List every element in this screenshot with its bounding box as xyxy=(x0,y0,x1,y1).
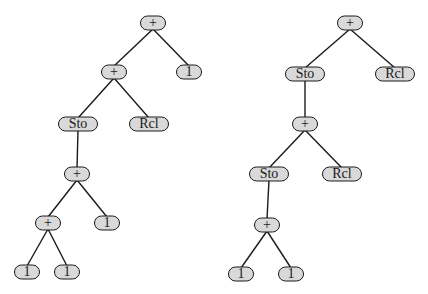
right-tree-edge-R6-R7 xyxy=(241,231,267,268)
right-tree-node-R8: 1 xyxy=(278,267,304,282)
left-tree-edge-L1-L4 xyxy=(114,78,149,118)
right-tree-edge-R0-R2 xyxy=(350,29,395,68)
right-tree-node-R6: + xyxy=(254,218,280,233)
right-tree-edge-R0-R1 xyxy=(305,29,350,68)
right-tree-edge-R6-R8 xyxy=(267,231,291,268)
left-tree-edge-L5-L6 xyxy=(48,180,77,217)
left-tree-edge-L6-L8 xyxy=(27,229,48,266)
left-tree-node-L9: 1 xyxy=(54,265,80,280)
right-tree-node-R0: + xyxy=(337,16,363,31)
left-tree-edge-L3-L5 xyxy=(77,130,78,168)
left-tree-edge-L1-L3 xyxy=(78,78,114,118)
left-tree-node-L1: + xyxy=(101,65,127,80)
right-tree-node-R5: Rcl xyxy=(322,167,362,182)
left-tree-edge-L0-L2 xyxy=(153,29,189,66)
right-tree-node-R7: 1 xyxy=(228,267,254,282)
left-tree-node-L6: + xyxy=(35,216,61,231)
left-tree-node-L7: 1 xyxy=(94,216,120,231)
right-tree-node-R1: Sto xyxy=(285,67,325,82)
left-tree-node-L2: 1 xyxy=(176,65,202,80)
left-tree-node-L0: + xyxy=(140,16,166,31)
right-tree-node-R3: + xyxy=(292,117,318,132)
right-tree-edge-R4-R6 xyxy=(267,180,269,219)
right-tree-edge-R3-R4 xyxy=(269,130,305,168)
expression-tree-diagram: ++1StoRcl++111+StoRcl+StoRcl+11 xyxy=(0,0,428,294)
left-tree-edge-L6-L9 xyxy=(48,229,67,266)
right-tree-edge-R3-R5 xyxy=(305,130,342,168)
left-tree-node-L3: Sto xyxy=(58,117,98,132)
left-tree-node-L5: + xyxy=(64,167,90,182)
right-tree-node-R2: Rcl xyxy=(375,67,415,82)
tree-edges xyxy=(0,0,428,294)
left-tree-edge-L5-L7 xyxy=(77,180,107,217)
left-tree-node-L8: 1 xyxy=(14,265,40,280)
left-tree-edge-L0-L1 xyxy=(114,29,153,66)
left-tree-node-L4: Rcl xyxy=(129,117,169,132)
right-tree-node-R4: Sto xyxy=(249,167,289,182)
